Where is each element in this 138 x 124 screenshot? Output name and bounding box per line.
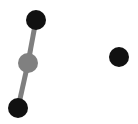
node-bottom xyxy=(8,98,28,118)
node-top xyxy=(26,10,46,30)
diagram-canvas xyxy=(0,0,138,124)
node-middle xyxy=(18,53,38,73)
node-right xyxy=(109,47,129,67)
diagram-svg xyxy=(0,0,138,124)
